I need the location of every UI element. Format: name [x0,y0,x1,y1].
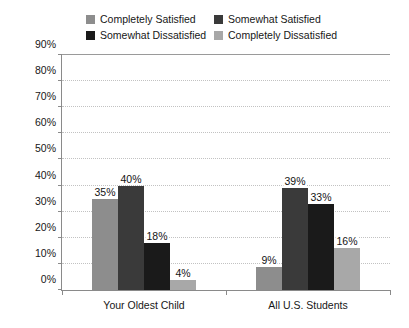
y-axis-label: 0% [41,274,56,285]
bar[interactable] [170,280,196,290]
bar-group: 9%39%33%16% [226,55,390,290]
bar-slot: 33% [308,55,334,290]
legend-item[interactable]: Completely Satisfied [86,13,214,25]
y-axis-label: 80% [35,65,56,76]
legend-item[interactable]: Somewhat Satisfied [214,13,372,25]
bar[interactable] [334,248,360,290]
bar[interactable] [118,186,144,290]
legend-item[interactable]: Completely Dissatisfied [214,29,372,41]
y-axis-label: 90% [35,39,56,50]
legend-swatch-icon [214,15,223,24]
bar[interactable] [92,199,118,290]
x-axis-tick [390,290,391,295]
x-axis-tick [226,290,227,295]
x-axis-category-label: Your Oldest Child [103,299,184,311]
bar[interactable] [308,204,334,290]
x-axis-category-label: All U.S. Students [268,299,347,311]
bar-chart: Completely SatisfiedSomewhat SatisfiedSo… [0,0,409,328]
bar[interactable] [256,267,282,291]
bar[interactable] [282,188,308,290]
bar-value-label: 9% [260,254,277,266]
y-axis-label: 10% [35,247,56,258]
bar-value-label: 40% [119,173,142,185]
bar-slot: 4% [170,55,196,290]
bar-slot: 9% [256,55,282,290]
y-axis-label: 70% [35,91,56,102]
y-axis-label: 40% [35,169,56,180]
legend-item-label: Completely Dissatisfied [228,29,337,41]
bar-value-label: 39% [283,175,306,187]
legend-item-label: Somewhat Dissatisfied [100,29,206,41]
y-axis-label: 20% [35,221,56,232]
legend-item-label: Completely Satisfied [100,13,196,25]
legend-swatch-icon [214,31,223,40]
legend-swatch-icon [86,31,95,40]
bar-slot: 39% [282,55,308,290]
x-axis-tick [62,290,63,295]
bar-value-label: 18% [145,230,168,242]
legend-item-label: Somewhat Satisfied [228,13,321,25]
bar-slot: 16% [334,55,360,290]
bar-value-label: 4% [174,267,191,279]
bars-layer: 35%40%18%4%9%39%33%16% [62,55,390,290]
y-axis-label: 30% [35,195,56,206]
bar-slot: 18% [144,55,170,290]
chart-legend: Completely SatisfiedSomewhat SatisfiedSo… [86,11,372,43]
bar-value-label: 33% [309,191,332,203]
y-axis-label: 50% [35,143,56,154]
legend-item[interactable]: Somewhat Dissatisfied [86,29,214,41]
bar-value-label: 16% [335,235,358,247]
bar-slot: 35% [92,55,118,290]
bar[interactable] [144,243,170,290]
plot-area: 0%10%20%30%40%50%60%70%80%90% 35%40%18%4… [61,55,390,291]
bar-group: 35%40%18%4% [62,55,226,290]
y-axis-label: 60% [35,117,56,128]
bar-slot: 40% [118,55,144,290]
bar-value-label: 35% [93,186,116,198]
legend-swatch-icon [86,15,95,24]
